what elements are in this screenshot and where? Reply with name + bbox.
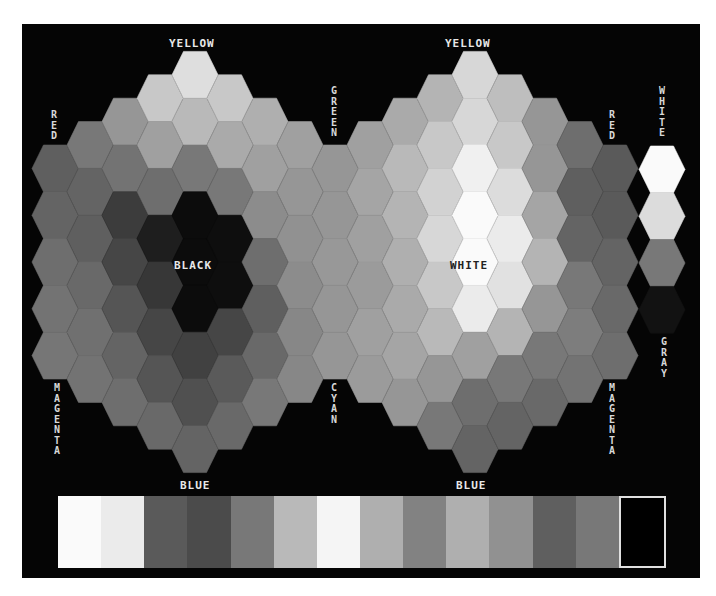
label-black-center: BLACK (174, 260, 212, 271)
label-yellow-left: YELLOW (169, 38, 215, 49)
label-cyan: CYAN (329, 383, 339, 425)
label-blue-left: BLUE (180, 480, 211, 491)
palette-swatch (619, 496, 666, 568)
label-blue-right: BLUE (456, 480, 487, 491)
gray-scale-hex (639, 286, 685, 333)
label-white-center: WHITE (450, 260, 488, 271)
crt-screen: YELLOW YELLOW RED GREEN RED WHITE BLACK … (22, 24, 700, 578)
palette-swatch (403, 496, 446, 568)
color-palette-strip (58, 496, 666, 568)
label-yellow-right: YELLOW (445, 38, 491, 49)
palette-swatch (360, 496, 403, 568)
label-green: GREEN (329, 86, 339, 139)
label-red-left: RED (49, 110, 59, 142)
palette-swatch (576, 496, 619, 568)
palette-swatch (187, 496, 230, 568)
palette-swatch (144, 496, 187, 568)
palette-swatch (317, 496, 360, 568)
label-red-right: RED (607, 110, 617, 142)
label-white-gray-top: WHITE (657, 86, 667, 139)
palette-swatch (101, 496, 144, 568)
gray-scale-hex (639, 240, 685, 287)
palette-swatch (58, 496, 101, 568)
gray-scale-hex (639, 193, 685, 240)
palette-swatch (231, 496, 274, 568)
hexagon-color-space (22, 24, 700, 578)
palette-swatch (274, 496, 317, 568)
palette-swatch (533, 496, 576, 568)
label-magenta-right: MAGENTA (607, 383, 617, 457)
palette-swatch (446, 496, 489, 568)
label-magenta-left: MAGENTA (52, 383, 62, 457)
palette-swatch (489, 496, 532, 568)
label-gray: GRAY (659, 337, 669, 379)
gray-scale-hex (639, 146, 685, 193)
